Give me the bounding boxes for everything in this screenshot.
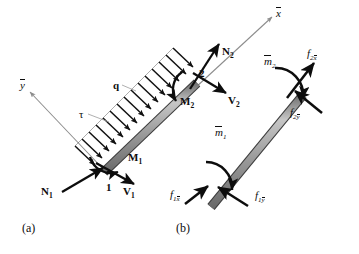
moment-label-m1bar: m1 <box>215 127 226 138</box>
force-label-f1xbar: f1x <box>170 189 180 200</box>
panel-caption-b: (b) <box>176 222 190 234</box>
node-label-2: 2 <box>199 68 205 79</box>
moment-label-M1: M1 <box>128 152 142 163</box>
force-label-f2ybar: f2y <box>290 107 300 118</box>
arrow-f1xbar <box>185 186 208 204</box>
moment-label-M2: M2 <box>180 96 194 107</box>
axis-label-xbar: x <box>276 8 281 19</box>
shear-stress-label-tau: τ <box>79 109 83 120</box>
force-label-f1ybar: f1y <box>255 190 265 201</box>
axis-label-ybar: y <box>20 80 25 91</box>
force-label-N2: N2 <box>222 46 234 57</box>
arrow-V2 <box>193 73 226 93</box>
force-label-f2xbar: f2x <box>307 48 317 59</box>
distributed-load-label-q: q <box>113 80 119 91</box>
arrow-N1 <box>62 168 103 192</box>
node-label-1: 1 <box>106 182 112 193</box>
global-axis-ybar <box>30 92 105 171</box>
q-leader-line <box>122 85 136 91</box>
force-label-V2: V2 <box>228 95 240 106</box>
force-label-V1: V1 <box>123 186 135 197</box>
force-label-N1: N1 <box>41 186 53 197</box>
structural-mechanics-figure: x y q τ 1 2 N1 V1 M1 N2 V2 M2 f1x f1y m1… <box>0 0 359 254</box>
load-envelope-line <box>75 48 173 146</box>
figure-canvas <box>0 0 359 254</box>
panel-caption-a: (a) <box>22 222 35 234</box>
moment-label-m2bar: m2 <box>264 56 275 67</box>
